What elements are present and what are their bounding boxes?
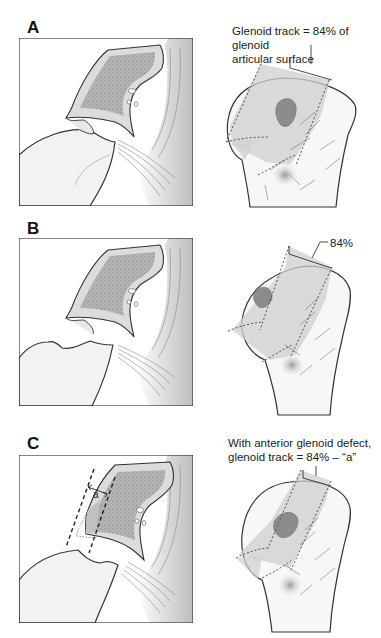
panel-label-c: C bbox=[27, 434, 39, 454]
diagram-svg bbox=[0, 0, 381, 638]
caption-c-line2: glenoid track = 84% – “a” bbox=[228, 450, 371, 464]
glenoid-inset-a bbox=[19, 38, 193, 206]
caption-c-line1: With anterior glenoid defect, bbox=[228, 436, 371, 450]
caption-a-line1: Glenoid track = 84% of glenoid bbox=[232, 24, 381, 52]
defect-label-a: a bbox=[93, 488, 99, 502]
humerus-b bbox=[228, 242, 350, 415]
panel-label-b: B bbox=[27, 219, 39, 239]
caption-a: Glenoid track = 84% of glenoid articular… bbox=[232, 24, 381, 66]
humerus-a bbox=[226, 45, 356, 207]
humerus-c bbox=[236, 466, 350, 632]
caption-c: With anterior glenoid defect, glenoid tr… bbox=[228, 436, 371, 464]
caption-b: 84% bbox=[330, 236, 353, 250]
glenoid-inset-b bbox=[19, 238, 193, 406]
caption-a-line2: articular surface bbox=[232, 52, 381, 66]
glenoid-inset-c bbox=[19, 455, 193, 623]
